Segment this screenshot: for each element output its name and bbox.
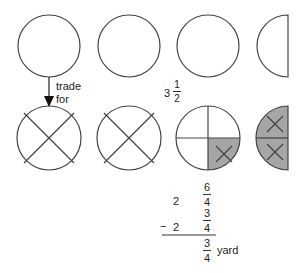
trade-arrow bbox=[44, 77, 54, 107]
denominator: 2 bbox=[172, 93, 182, 104]
result-denominator: 4 bbox=[202, 253, 212, 264]
row1-whole: 2 bbox=[171, 196, 181, 207]
for-label: for bbox=[56, 94, 69, 105]
bottom-circle-1-crossed bbox=[17, 106, 81, 170]
numerator: 1 bbox=[172, 79, 182, 90]
top-whole-circle-2 bbox=[98, 15, 160, 77]
fraction-diagram-graphics bbox=[0, 0, 305, 273]
row2-whole: 2 bbox=[171, 222, 181, 233]
row2-fraction-bar bbox=[203, 220, 211, 221]
minus-sign: − bbox=[160, 221, 166, 232]
result-numerator: 3 bbox=[202, 238, 212, 249]
result-fraction-bar bbox=[203, 250, 211, 251]
top-whole-circle-1 bbox=[18, 15, 80, 77]
row1-numerator: 6 bbox=[202, 182, 212, 193]
top-whole-circle-3 bbox=[177, 15, 239, 77]
trade-label: trade bbox=[56, 81, 81, 92]
whole-part: 3 bbox=[162, 88, 172, 99]
row2-numerator: 3 bbox=[202, 208, 212, 219]
bottom-circle-2-crossed bbox=[97, 106, 161, 170]
bottom-circle-3-quarters bbox=[176, 106, 240, 170]
row1-fraction-bar bbox=[203, 194, 211, 195]
result-unit: yard bbox=[217, 245, 238, 256]
fraction-bar bbox=[173, 91, 181, 92]
top-half-circle bbox=[257, 15, 288, 77]
row2-denominator: 4 bbox=[202, 223, 212, 234]
bottom-half-circle-shaded bbox=[256, 106, 288, 170]
